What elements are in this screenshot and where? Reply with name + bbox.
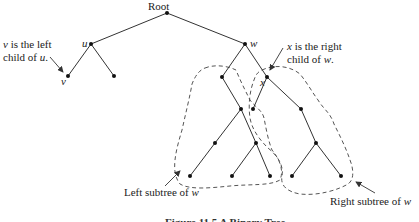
node-c (254, 141, 258, 145)
right-subtree-text: Right subtree of (330, 195, 404, 207)
node-x_left (251, 107, 255, 111)
v-annotation-suffix: . (45, 51, 48, 63)
v-annotation-line2: child of u. (3, 51, 48, 63)
edge-d-d_right (316, 143, 341, 176)
v-annotation-line1: v is the left (3, 38, 52, 50)
edge-u-v (68, 44, 91, 76)
node-w_left (220, 75, 224, 79)
node-x (265, 75, 269, 79)
edge-x-x_right (267, 77, 301, 109)
node-x_right (299, 107, 303, 111)
edge-c-c_right (256, 143, 270, 176)
node-v-label: v (61, 75, 66, 87)
node-u-label: u (82, 37, 88, 49)
edge-d-d_left (292, 143, 316, 176)
node-u (89, 42, 93, 46)
v-annotation-text: is the left (8, 38, 52, 50)
left-subtree-var: w (192, 186, 200, 198)
edge-root-u (91, 13, 167, 44)
root-label: Root (148, 0, 169, 12)
tree-nodes (66, 11, 343, 178)
node-w-label: w (250, 37, 258, 49)
node-d (314, 141, 318, 145)
edge-x_right-d (301, 109, 316, 143)
left-subtree-outline (175, 66, 282, 188)
v-annotation-arrow (50, 57, 63, 72)
node-x-label: x (259, 76, 265, 88)
right-subtree-var: w (404, 195, 412, 207)
left-subtree-text: Left subtree of (124, 186, 192, 198)
binary-tree-diagram: Root u w v x v is the left child of u. x… (0, 0, 419, 222)
x-annotation-prefix: child of (287, 53, 324, 65)
node-a (239, 107, 243, 111)
x-annotation-suffix: . (331, 53, 334, 65)
edge-c-c_left (232, 143, 256, 176)
edge-a-c (241, 109, 256, 143)
x-annotation-line1: x is the right (286, 40, 342, 52)
node-v (66, 74, 70, 78)
node-b_left (188, 174, 192, 178)
node-d_right (339, 174, 343, 178)
left-subtree-label: Left subtree of w (124, 186, 200, 198)
tree-edges (68, 13, 341, 176)
edge-root-w (167, 13, 245, 44)
x-annotation-line2: child of w. (287, 53, 334, 65)
edge-a-b (215, 109, 241, 143)
left-subtree-arrow (165, 171, 180, 186)
node-u_right (112, 74, 116, 78)
node-b (213, 141, 217, 145)
right-subtree-label: Right subtree of w (330, 195, 412, 207)
figure-caption: Figure 11.5 A Binary Tree (165, 216, 286, 222)
v-annotation-prefix: child of (3, 51, 40, 63)
right-subtree-arrow (356, 182, 375, 193)
node-d_left (290, 174, 294, 178)
x-annotation-text: is the right (292, 40, 342, 52)
node-c_right (268, 174, 272, 178)
edge-u-u_right (91, 44, 114, 76)
edge-w_left-a (222, 77, 241, 109)
edge-w-w_left (222, 44, 245, 77)
edge-b-b_left (190, 143, 215, 176)
node-c_left (230, 174, 234, 178)
node-w (243, 42, 247, 46)
